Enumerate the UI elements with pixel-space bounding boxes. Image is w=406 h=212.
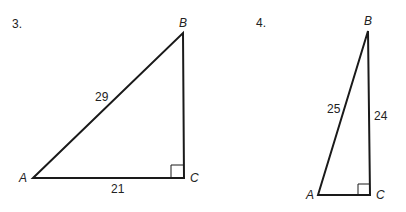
vertex-c-4: C	[376, 189, 385, 201]
side-ab-length-4: 25	[327, 103, 340, 115]
side-ab-length-3: 29	[95, 91, 108, 103]
vertex-a-4: A	[306, 189, 314, 201]
vertex-b-4: B	[364, 15, 372, 27]
vertex-a-3: A	[19, 172, 27, 184]
diagram-canvas	[0, 0, 406, 212]
side-bc-length-4: 24	[374, 110, 387, 122]
vertex-c-3: C	[190, 172, 199, 184]
triangle-3	[33, 33, 184, 178]
side-ac-length-3: 21	[111, 183, 124, 195]
problem-number-4: 4.	[256, 17, 266, 29]
problem-number-3: 3.	[12, 18, 22, 30]
vertex-b-3: B	[179, 17, 187, 29]
triangle-4	[318, 31, 370, 195]
